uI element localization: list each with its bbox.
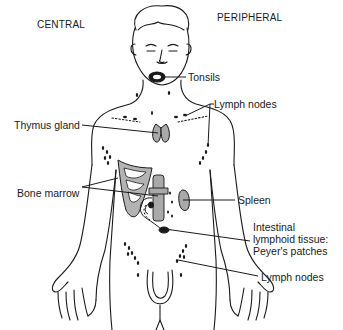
label-lymph-nodes-lower: Lymph nodes xyxy=(261,271,324,283)
label-thymus-gland: Thymus gland xyxy=(14,119,80,131)
label-tonsils: Tonsils xyxy=(188,71,220,83)
label-lymph-nodes-upper: Lymph nodes xyxy=(214,98,277,110)
header-peripheral: PERIPHERAL xyxy=(217,12,282,24)
clipped-title xyxy=(0,0,343,4)
label-spleen: Spleen xyxy=(238,194,271,206)
header-central: CENTRAL xyxy=(37,19,85,31)
label-intestinal-line2: lymphoid tissue: xyxy=(253,233,328,245)
label-bone-marrow: Bone marrow xyxy=(17,187,79,199)
label-intestinal-line3: Peyer's patches xyxy=(253,245,327,257)
label-intestinal-line1: Intestinal xyxy=(253,221,295,233)
